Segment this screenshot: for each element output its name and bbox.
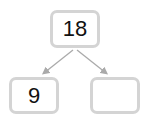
arrow-left [44,50,73,73]
bottom-left-number: 9 [28,83,40,109]
bottom-right-answer-box[interactable] [90,77,140,114]
top-number-box: 18 [50,10,100,48]
arrow-right [77,50,106,73]
bottom-left-number-box: 9 [9,77,59,114]
top-number: 18 [63,16,87,42]
